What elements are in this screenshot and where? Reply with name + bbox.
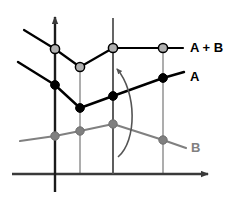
series-sum-node: [75, 62, 84, 71]
series-a-label: A: [190, 69, 200, 84]
series-b-node: [109, 120, 117, 128]
series-a-node: [109, 92, 118, 101]
series-sum-node: [108, 43, 117, 52]
diagram-canvas: A + B A B: [0, 0, 226, 200]
vector-addition-diagram: A + B A B: [0, 0, 226, 200]
series-a-node: [51, 81, 60, 90]
series-a-group: [18, 62, 184, 112]
series-b-node: [76, 127, 84, 135]
series-b-label: B: [191, 140, 200, 155]
rotation-arrow-icon: [117, 69, 132, 157]
series-sum-group: [24, 30, 183, 72]
series-sum-node: [50, 44, 59, 53]
series-b-node: [159, 136, 167, 144]
series-sum-label: A + B: [190, 40, 223, 55]
gridlines-group: [55, 48, 163, 174]
series-a-line: [18, 62, 184, 108]
series-a-node: [159, 74, 168, 83]
series-sum-node: [158, 43, 167, 52]
axes-group: [12, 17, 208, 192]
series-b-group: [20, 120, 186, 148]
series-a-node: [76, 104, 85, 113]
series-b-node: [51, 132, 59, 140]
